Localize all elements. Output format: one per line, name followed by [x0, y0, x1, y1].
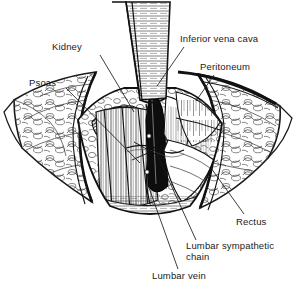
label-lumbar-vein: Lumbar vein [152, 270, 206, 281]
retractor-blade-lower [96, 196, 206, 221]
label-rectus: Rectus [236, 216, 266, 227]
label-inferior-vena-cava: Inferior vena cava [180, 33, 258, 44]
label-lumbar-sympathetic-chain: Lumbar sympathetic chain [186, 240, 274, 262]
label-kidney: Kidney [52, 41, 82, 52]
label-psoas: Psoas [29, 77, 56, 88]
label-peritoneum: Peritoneum [200, 61, 250, 72]
anatomical-illustration-figure: Kidney Psoas Inferior vena cava Peritone… [0, 0, 296, 290]
